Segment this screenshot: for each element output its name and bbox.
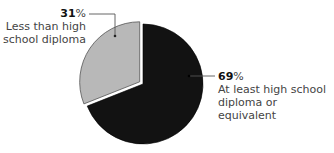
- leader-dot-69: [188, 75, 191, 78]
- label-line-1: Less than high: [0, 20, 86, 33]
- leader-dot-31: [114, 35, 117, 38]
- percent-sign: %: [233, 70, 243, 83]
- label-line-2: diploma or equivalent: [218, 96, 334, 122]
- percent-sign: %: [76, 7, 86, 20]
- percent-value: 69: [218, 70, 233, 83]
- label-at-least-high-school: 69% At least high school diploma or equi…: [218, 70, 334, 122]
- label-less-than-high-school: 31% Less than high school diploma: [0, 7, 86, 46]
- percent-value: 31: [60, 7, 75, 20]
- label-line-1: At least high school: [218, 83, 334, 96]
- label-line-2: school diploma: [0, 33, 86, 46]
